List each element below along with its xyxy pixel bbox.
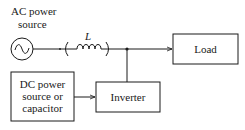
dc-source-label-line1: DC power [20,78,66,90]
load-label: Load [194,43,217,55]
ac-source-label-line1: AC power [11,5,57,17]
inverter-label: Inverter [111,91,146,103]
power-circuit-diagram: AC power source L Load DC power source o… [0,0,245,130]
inductor-label: L [84,30,91,42]
ac-source-symbol [11,38,33,60]
ac-source-label-line2: source [18,18,47,30]
wire-dot [59,48,61,50]
dc-source-label-line2: source or [22,90,63,102]
dc-source-label-line3: capacitor [22,102,63,114]
inductor-coil [77,45,101,50]
inductor-symbol [63,42,112,56]
sine-wave-icon [15,45,29,54]
